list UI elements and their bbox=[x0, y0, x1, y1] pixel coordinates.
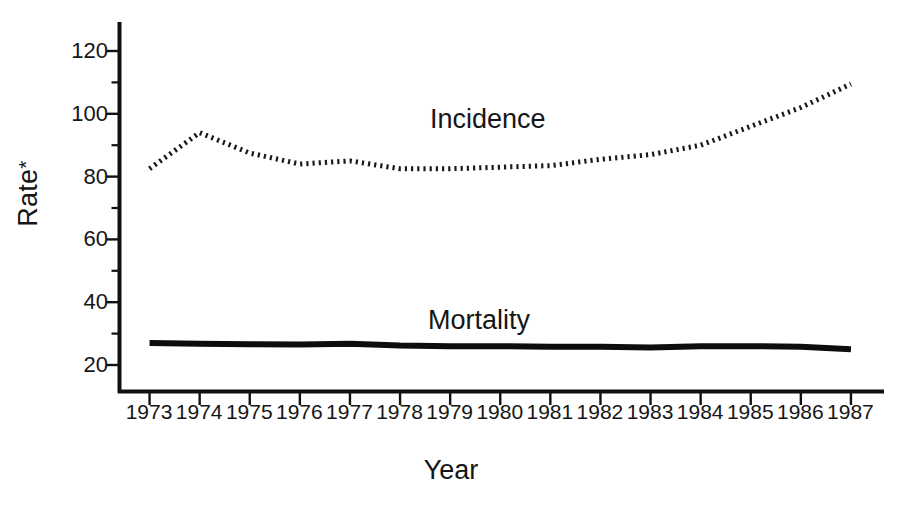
series-label-mortality: Mortality bbox=[428, 305, 530, 336]
y-axis-ticks bbox=[107, 51, 119, 365]
x-axis-tick-labels: 1973197419751976197719781979198019811982… bbox=[119, 400, 881, 440]
x-axis-title: Year bbox=[0, 455, 902, 486]
axes bbox=[118, 22, 884, 393]
chart-figure: Rate* 20406080100120 1973197419751976197… bbox=[0, 0, 902, 514]
series-label-incidence: Incidence bbox=[430, 104, 546, 135]
series-line-mortality bbox=[150, 343, 851, 349]
x-tick-label: 1987 bbox=[818, 400, 882, 424]
